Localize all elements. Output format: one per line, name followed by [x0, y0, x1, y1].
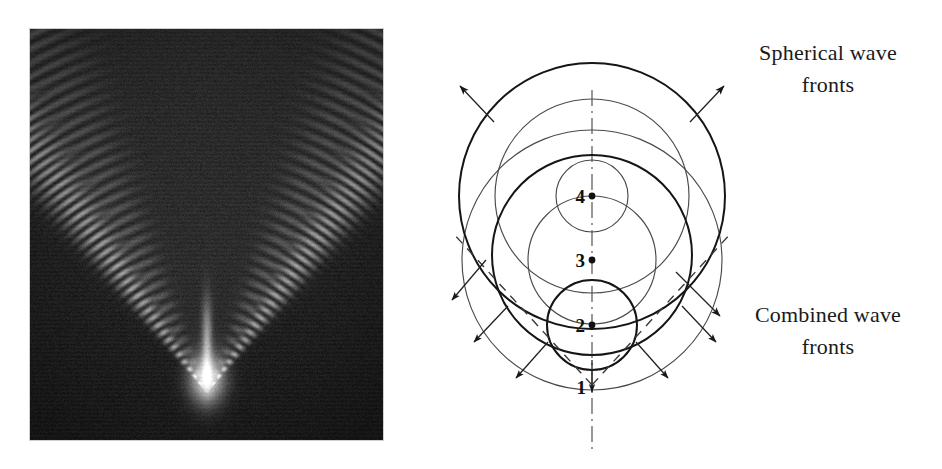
point-dot-2 — [589, 322, 596, 329]
point-label-1: 1 — [577, 377, 587, 398]
arrow-bottom-right — [636, 342, 668, 378]
mach-line-left — [452, 232, 592, 385]
wavefront-diagram: 4 3 2 1 Spherical wave fronts Combined w… — [390, 0, 942, 469]
arrow-mid-left — [452, 260, 486, 300]
arrow-up-right — [690, 86, 724, 122]
wavefront-svg: 4 3 2 1 Spherical wave fronts Combined w… — [390, 0, 942, 469]
arrow-bottom-left — [516, 342, 548, 378]
label-combined-line1: Combined wave — [755, 302, 901, 327]
point-label-4: 4 — [576, 186, 586, 207]
point-label-3: 3 — [576, 250, 586, 271]
point-label-2: 2 — [576, 315, 586, 336]
point-dot-3 — [589, 257, 596, 264]
figure-root: 4 3 2 1 Spherical wave fronts Combined w… — [0, 0, 942, 469]
mach-line-right — [592, 232, 732, 385]
shadowgraph-canvas — [30, 29, 383, 440]
label-spherical-line1: Spherical wave — [759, 40, 897, 65]
label-combined-wave-fronts: Combined wave fronts — [755, 302, 901, 359]
point-dot-4 — [589, 193, 596, 200]
label-combined-line2: fronts — [802, 334, 855, 359]
arrow-up-left — [460, 86, 494, 122]
shadowgraph-photo — [30, 29, 383, 440]
label-spherical-wave-fronts: Spherical wave fronts — [759, 40, 897, 97]
label-spherical-line2: fronts — [802, 72, 855, 97]
